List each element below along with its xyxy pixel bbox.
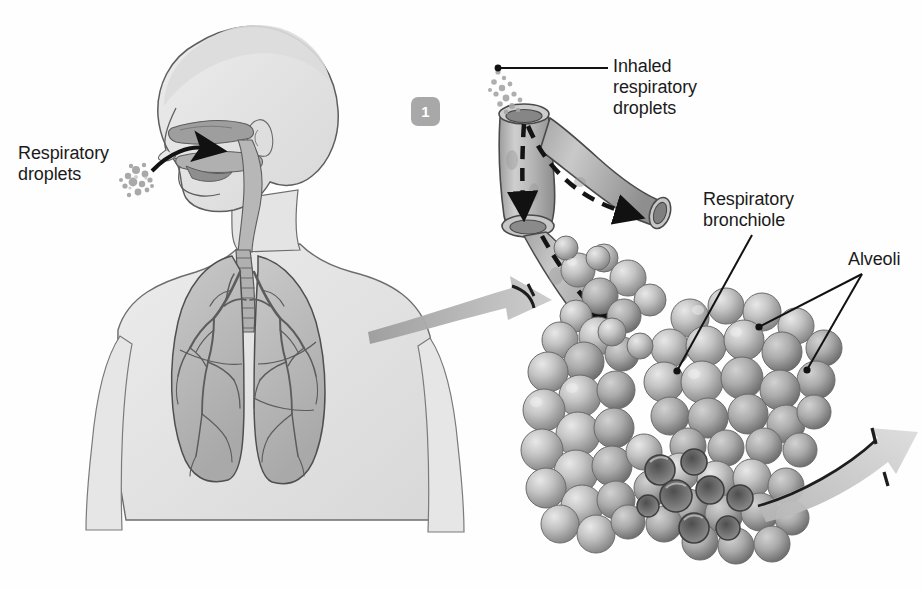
label-alveoli: Alveoli <box>848 249 900 270</box>
label-inhaled-respiratory-droplets: Inhaled respiratory droplets <box>613 56 697 119</box>
label-respiratory-bronchiole: Respiratory bronchiole <box>703 189 794 231</box>
label-respiratory-droplets: Respiratory droplets <box>18 143 109 185</box>
step-badge-1: 1 <box>411 97 440 126</box>
respiratory-droplet-inhalation-figure: Respiratory droplets Inhaled respiratory… <box>0 0 923 590</box>
alveolar-cluster-upper-right <box>644 288 842 467</box>
respiratory-droplets-cluster-icon <box>119 163 154 197</box>
leader-line-inhaled-droplets <box>495 65 608 72</box>
illustration-canvas <box>0 0 923 590</box>
human-torso-illustration <box>86 25 464 532</box>
